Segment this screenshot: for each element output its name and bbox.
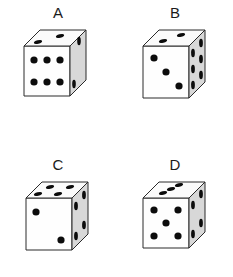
- die-cell-a: A: [0, 0, 116, 138]
- die-c-front-face: [26, 198, 72, 250]
- die-figure-d: [137, 174, 213, 260]
- die-label-d: D: [117, 156, 233, 173]
- die-figure-b: [137, 22, 213, 108]
- die-label-c: C: [0, 156, 116, 173]
- die-figure-a: [20, 22, 96, 108]
- die-label-a: A: [0, 4, 116, 21]
- die-cell-d: D: [117, 152, 233, 277]
- die-cell-c: C: [0, 152, 116, 277]
- dice-grid: A B: [0, 0, 233, 277]
- die-label-b: B: [117, 4, 233, 21]
- die-figure-c: [20, 174, 96, 260]
- die-cell-b: B: [117, 0, 233, 138]
- die-a-front-face: [24, 46, 70, 96]
